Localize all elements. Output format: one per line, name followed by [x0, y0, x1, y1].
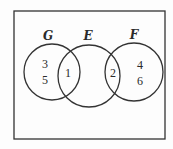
set-g-label: G: [43, 29, 53, 43]
venn-diagram: G E F 3 5 1 2 4 6: [0, 0, 173, 149]
element-f-only-4: 4: [137, 58, 143, 72]
element-g-only-5: 5: [42, 73, 48, 87]
element-e-and-f-2: 2: [110, 66, 116, 80]
element-f-only-6: 6: [137, 74, 143, 88]
set-g-circle: [24, 44, 80, 100]
element-g-only-3: 3: [42, 57, 48, 71]
set-f-label: F: [129, 28, 140, 42]
element-g-and-e-1: 1: [65, 66, 71, 80]
set-e-label: E: [82, 29, 93, 43]
